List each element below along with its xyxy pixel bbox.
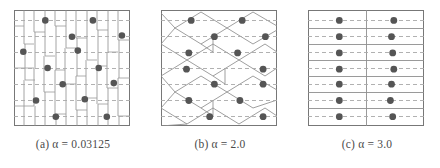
site-point (234, 50, 241, 57)
site-point (239, 17, 246, 24)
panel-a-svg (14, 10, 130, 126)
site-point (82, 96, 89, 103)
site-point (336, 33, 343, 40)
site-point (188, 17, 195, 24)
site-point (260, 81, 267, 88)
site-point (69, 33, 76, 40)
site-point (260, 113, 267, 120)
site-point (260, 66, 267, 73)
panel-b-svg (161, 10, 277, 126)
figure-three-panel-voronoi: (a) α = 0.03125 (b) α = 2.0 (c) α = 3.0 (0, 0, 440, 168)
site-point (59, 81, 66, 88)
site-point (119, 32, 126, 39)
site-point (211, 33, 218, 40)
site-point (336, 50, 343, 57)
panel-c-diagram (308, 10, 424, 126)
site-point (336, 17, 343, 24)
panel-b-diagram (161, 10, 277, 126)
site-point (33, 97, 40, 104)
site-point (389, 113, 396, 120)
site-point (390, 66, 397, 73)
panel-a-diagram (14, 10, 130, 126)
site-point (90, 17, 97, 24)
panel-b-border (162, 11, 277, 126)
site-point (390, 17, 397, 24)
site-point (20, 49, 27, 56)
site-point (111, 80, 118, 87)
site-point (262, 33, 269, 40)
site-point (42, 17, 49, 24)
site-point (388, 33, 395, 40)
site-point (95, 65, 102, 72)
site-point (336, 97, 343, 104)
site-point (336, 113, 343, 120)
site-point (44, 65, 51, 72)
site-point (388, 81, 395, 88)
caption-panel-a: (a) α = 0.03125 (0, 138, 146, 150)
caption-panel-b: (b) α = 2.0 (147, 138, 293, 150)
site-point (185, 97, 192, 104)
site-point (185, 50, 192, 57)
caption-panel-c: (c) α = 3.0 (294, 138, 440, 150)
site-point (104, 113, 111, 120)
site-point (53, 113, 60, 120)
site-point (75, 47, 82, 54)
site-point (206, 113, 213, 120)
site-point (336, 81, 343, 88)
site-point (387, 97, 394, 104)
site-point (183, 66, 190, 73)
site-point (237, 97, 244, 104)
site-point (389, 50, 396, 57)
site-point (336, 66, 343, 73)
site-point (211, 81, 218, 88)
panel-c-svg (308, 10, 424, 126)
